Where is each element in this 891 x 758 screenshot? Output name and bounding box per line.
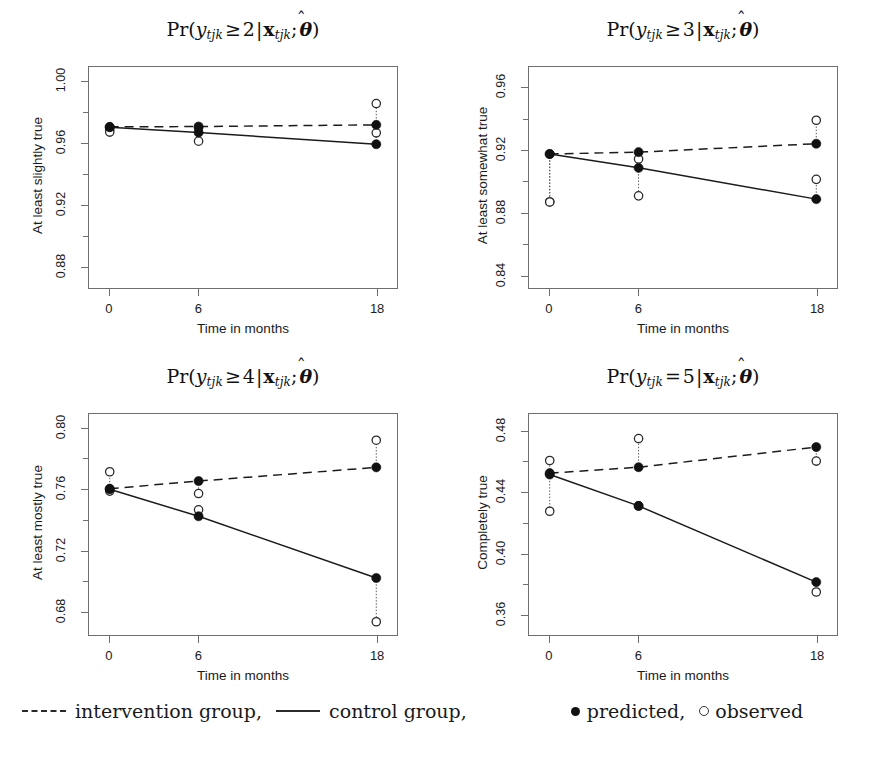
y-tick-minor bbox=[83, 458, 88, 459]
y-axis-title-top-left: At least slightly true bbox=[30, 106, 45, 246]
y-tick-label: 0.96 bbox=[494, 64, 508, 108]
control-line bbox=[550, 475, 817, 583]
y-tick-label: 0.36 bbox=[494, 592, 508, 636]
x-tick-label: 6 bbox=[618, 301, 658, 316]
y-tick-major bbox=[81, 81, 88, 82]
y-tick-minor bbox=[523, 181, 528, 182]
y-tick-label: 0.48 bbox=[494, 408, 508, 452]
predicted-point bbox=[194, 477, 203, 486]
y-tick-major bbox=[81, 428, 88, 429]
control-line bbox=[550, 154, 817, 199]
observed-point bbox=[812, 588, 820, 596]
y-tick-label: 0.88 bbox=[54, 244, 68, 288]
y-tick-major bbox=[81, 551, 88, 552]
y-tick-major bbox=[521, 87, 528, 88]
panel-title-bottom-right: Pr(ytjk=5|xtjk; θ̂) bbox=[528, 367, 838, 388]
y-tick-major bbox=[81, 612, 88, 613]
x-tick bbox=[817, 289, 818, 296]
observed-point bbox=[194, 489, 202, 497]
solid-line-icon bbox=[276, 710, 320, 712]
intervention-line bbox=[110, 467, 377, 488]
predicted-point bbox=[105, 485, 114, 494]
dashed-line-icon bbox=[22, 710, 66, 712]
panel-title-top-right: Pr(ytjk≥3|xtjk; θ̂) bbox=[528, 20, 838, 41]
observed-point bbox=[812, 175, 820, 183]
series-canvas-bottom-left bbox=[89, 414, 397, 635]
panel-title-bottom-left: Pr(ytjk≥4|xtjk; θ̂) bbox=[88, 367, 398, 388]
y-tick-label: 0.40 bbox=[494, 531, 508, 575]
observed-point bbox=[812, 116, 820, 124]
panel-top-right: Pr(ytjk≥3|xtjk; θ̂) At least somewhat tr… bbox=[445, 8, 891, 338]
y-tick-label: 0.68 bbox=[54, 589, 68, 633]
plot-area-bottom-left bbox=[88, 413, 398, 636]
y-tick-major bbox=[521, 492, 528, 493]
observed-point bbox=[372, 618, 380, 626]
x-tick bbox=[638, 636, 639, 643]
predicted-point bbox=[194, 512, 203, 521]
predicted-point bbox=[812, 443, 821, 452]
x-tick bbox=[377, 289, 378, 296]
plot-area-bottom-right bbox=[528, 413, 838, 636]
y-tick-label: 0.80 bbox=[54, 405, 68, 449]
predicted-point bbox=[372, 140, 381, 149]
panel-top-left: Pr(ytjk≥2|xtjk; θ̂) At least slightly tr… bbox=[0, 8, 446, 338]
predicted-point bbox=[372, 463, 381, 472]
control-line bbox=[110, 489, 377, 578]
x-tick bbox=[817, 636, 818, 643]
observed-point bbox=[812, 457, 820, 465]
y-tick-label: 0.96 bbox=[54, 120, 68, 164]
x-axis-title-bottom-left: Time in months bbox=[88, 668, 398, 683]
observed-point bbox=[546, 507, 554, 515]
x-tick-label: 0 bbox=[529, 648, 569, 663]
open-circle-icon bbox=[699, 706, 709, 716]
x-tick-label: 0 bbox=[89, 648, 129, 663]
observed-point bbox=[194, 137, 202, 145]
series-canvas-top-right bbox=[529, 67, 837, 288]
series-canvas-top-left bbox=[89, 67, 397, 288]
predicted-point bbox=[105, 123, 114, 132]
x-tick bbox=[109, 636, 110, 643]
observed-point bbox=[106, 468, 114, 476]
y-tick-label: 0.92 bbox=[54, 182, 68, 226]
observed-point bbox=[372, 99, 380, 107]
predicted-point bbox=[812, 578, 821, 587]
x-tick bbox=[549, 636, 550, 643]
y-tick-major bbox=[521, 554, 528, 555]
x-axis-title-top-right: Time in months bbox=[528, 321, 838, 336]
y-axis-title-bottom-left: At least mostly true bbox=[30, 454, 45, 592]
observed-point bbox=[634, 434, 642, 442]
plot-area-top-right bbox=[528, 66, 838, 289]
panel-bottom-left: Pr(ytjk≥4|xtjk; θ̂) At least mostly true… bbox=[0, 355, 446, 685]
panel-bottom-right: Pr(ytjk=5|xtjk; θ̂) Completely true Time… bbox=[445, 355, 891, 685]
x-tick bbox=[377, 636, 378, 643]
observed-point bbox=[546, 456, 554, 464]
x-tick bbox=[198, 636, 199, 643]
y-tick-minor bbox=[83, 236, 88, 237]
y-tick-minor bbox=[523, 119, 528, 120]
y-tick-label: 0.92 bbox=[494, 127, 508, 171]
x-tick bbox=[198, 289, 199, 296]
predicted-point bbox=[545, 470, 554, 479]
x-tick-label: 18 bbox=[797, 648, 837, 663]
y-axis-title-top-right: At least somewhat true bbox=[475, 96, 490, 256]
predicted-point bbox=[545, 149, 554, 158]
x-tick-label: 18 bbox=[797, 301, 837, 316]
observed-point bbox=[634, 192, 642, 200]
x-tick-label: 6 bbox=[618, 648, 658, 663]
intervention-line bbox=[550, 447, 817, 473]
predicted-point bbox=[634, 163, 643, 172]
y-tick-major bbox=[521, 431, 528, 432]
y-tick-major bbox=[81, 489, 88, 490]
predicted-point bbox=[812, 195, 821, 204]
intervention-line bbox=[110, 125, 377, 127]
figure-root: Pr(ytjk≥2|xtjk; θ̂) At least slightly tr… bbox=[0, 0, 891, 758]
x-tick-label: 0 bbox=[89, 301, 129, 316]
intervention-line bbox=[550, 144, 817, 154]
predicted-point bbox=[372, 573, 381, 582]
y-tick-minor bbox=[83, 174, 88, 175]
y-axis-title-bottom-right: Completely true bbox=[475, 461, 490, 585]
y-tick-major bbox=[521, 615, 528, 616]
y-tick-minor bbox=[83, 112, 88, 113]
x-tick-label: 6 bbox=[178, 301, 218, 316]
y-tick-minor bbox=[523, 461, 528, 462]
